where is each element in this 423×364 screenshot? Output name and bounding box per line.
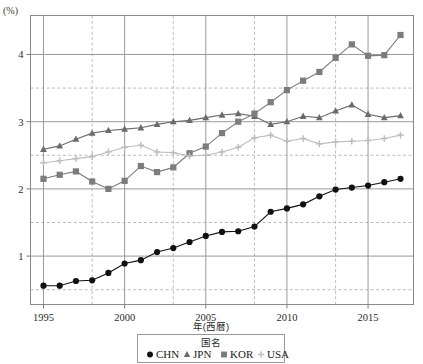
data-point [381,52,387,58]
data-point [154,149,161,156]
data-point [251,135,258,142]
data-point [73,278,79,284]
data-point [138,257,144,263]
data-point [203,233,209,239]
data-point [121,144,128,151]
data-point [365,182,371,188]
x-minor-gridlines [92,16,335,305]
data-point [349,184,355,190]
data-point [170,164,176,170]
data-point [251,111,257,117]
data-point [381,179,387,185]
data-point [122,260,128,266]
data-point [333,55,339,61]
data-point [219,149,226,156]
y-tick-label: 1 [18,251,23,262]
series-jpn [40,101,404,152]
data-point [154,249,160,255]
data-point [89,153,96,160]
data-point [349,41,355,47]
x-tick-label: 2015 [358,312,379,323]
data-point [235,228,241,234]
y-axis-ticks: 1234 [18,49,30,262]
legend: 国名 CHNJPNKORUSA [138,335,290,363]
y-tick-label: 3 [18,117,23,128]
data-point [89,178,95,184]
data-point [268,209,274,215]
data-point [316,141,323,148]
x-tick-label: 1995 [33,312,54,323]
data-point [138,163,144,169]
data-point [397,112,404,118]
data-point [105,186,111,192]
data-point [219,130,225,136]
x-axis-ticks: 19952000200520102015 [33,305,379,323]
series-chn [40,176,403,289]
y-axis-unit-label: (%) [3,5,18,17]
data-point [284,205,290,211]
data-point [122,178,128,184]
data-point [40,159,47,166]
data-point [154,169,160,175]
data-point [251,223,257,229]
data-point [284,87,290,93]
line-chart: (%) 1234 19952000200520102015 年(西暦) 国名 C… [0,0,423,364]
data-point [365,137,372,144]
data-point [300,78,306,84]
y-tick-label: 2 [18,184,23,195]
data-point [316,193,322,199]
data-point [332,139,339,146]
series-usa [40,132,404,166]
x-tick-label: 2000 [114,312,135,323]
data-point [235,119,241,125]
data-point [203,143,209,149]
data-point [397,32,403,38]
data-point [138,142,145,149]
data-point [40,283,46,289]
data-point [381,135,388,142]
data-point [235,144,242,151]
data-point [268,99,274,105]
data-point [300,201,306,207]
data-point [397,176,403,182]
legend-item-label: JPN [193,348,211,360]
data-point [267,132,274,139]
legend-item-label: USA [267,348,289,360]
data-series-layer [40,32,404,289]
data-point [333,186,339,192]
data-point [57,283,63,289]
y-tick-label: 4 [18,49,24,60]
data-point [89,277,95,283]
data-point [40,176,46,182]
data-point [147,352,153,358]
data-point [219,229,225,235]
data-point [397,132,404,139]
data-point [221,352,227,358]
x-tick-label: 2010 [276,312,297,323]
data-point [186,239,192,245]
data-point [348,101,355,107]
data-point [300,135,307,142]
data-point [170,245,176,251]
data-point [349,138,356,145]
data-point [105,270,111,276]
data-point [316,69,322,75]
data-point [365,111,372,117]
chart-container: (%) 1234 19952000200520102015 年(西暦) 国名 C… [0,0,423,364]
data-point [235,110,242,116]
data-point [73,168,79,174]
data-point [105,149,112,156]
data-point [365,53,371,59]
data-point [57,172,63,178]
x-axis-title: 年(西暦) [193,321,229,332]
data-point [56,157,63,164]
legend-item-label: KOR [230,348,254,360]
data-point [202,152,209,159]
legend-item-label: CHN [156,348,179,360]
plot-frame [31,16,414,305]
data-point [284,138,291,145]
data-point [300,113,307,119]
legend-title: 国名 [201,337,221,348]
data-point [73,155,80,162]
